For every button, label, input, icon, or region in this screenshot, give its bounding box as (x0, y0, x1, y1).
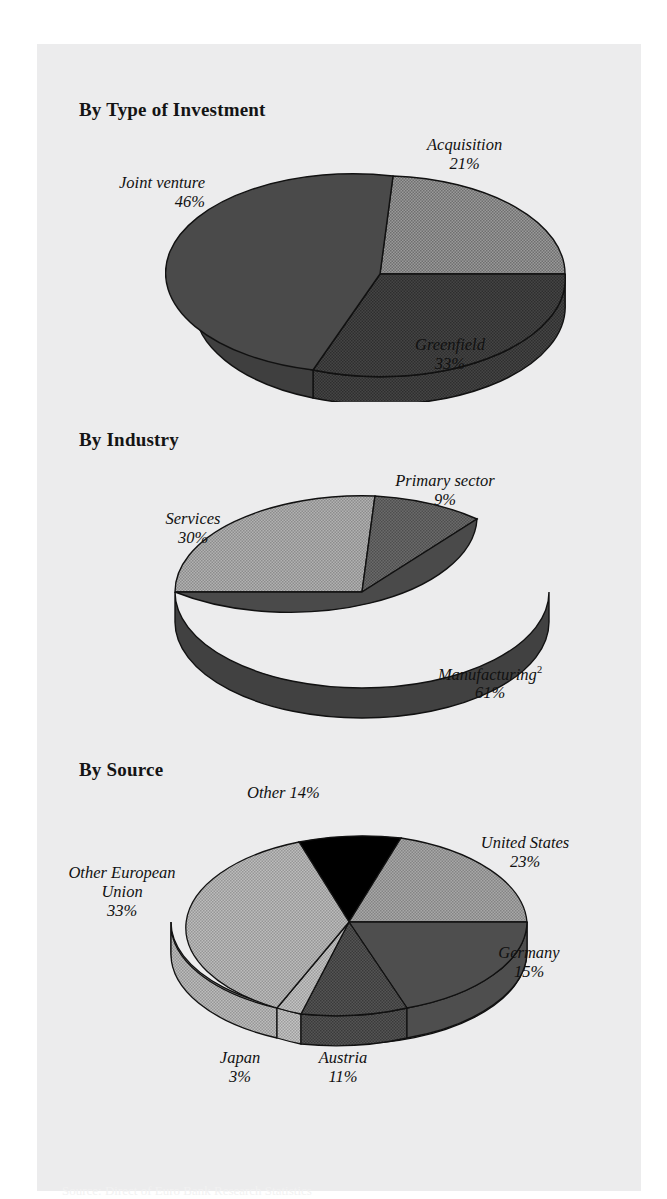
slice-label-primary-sector-value: 9% (355, 491, 535, 510)
footnote-marker-manufacturing: 2 (537, 664, 542, 675)
slice-label-united-states: United States 23% (435, 834, 615, 872)
slice-label-other-european-union-name: Other European (68, 863, 175, 882)
slice-label-united-states-name: United States (481, 833, 569, 852)
slice-label-joint-venture-value: 46% (37, 193, 205, 212)
document-page: By Type of Investment (37, 44, 641, 1191)
source-note: Source: Direct of Euro Bank Research Sta… (62, 1183, 312, 1199)
slice-label-manufacturing-value: 61% (385, 684, 595, 703)
slice-label-manufacturing: Manufacturing2 61% (385, 664, 595, 703)
slice-label-other-name: Other 14% (247, 783, 320, 802)
slice-label-austria-name: Austria (319, 1048, 368, 1067)
slice-label-austria: Austria 11% (283, 1049, 403, 1087)
slice-label-primary-sector-name: Primary sector (395, 471, 494, 490)
slice-label-other-european-union-value: 33% (32, 902, 212, 921)
slice-label-acquisition-name: Acquisition (427, 135, 502, 154)
slice-label-greenfield-name: Greenfield (415, 335, 485, 354)
slice-label-austria-value: 11% (283, 1068, 403, 1087)
slice-label-greenfield: Greenfield 33% (415, 336, 485, 374)
slice-label-joint-venture: Joint venture 46% (37, 174, 205, 212)
slice-label-germany-value: 15% (459, 963, 599, 982)
slice-label-other-european-union-name2: Union (32, 883, 212, 902)
slice-label-joint-venture-name: Joint venture (119, 173, 205, 192)
slice-label-other: Other 14% (247, 784, 320, 803)
slice-label-other-european-union: Other European Union 33% (32, 864, 212, 920)
slice-label-primary-sector: Primary sector 9% (355, 472, 535, 510)
pie-graphic-by-type-of-investment (165, 142, 585, 402)
chart-title-by-source: By Source (79, 759, 163, 781)
slice-label-japan: Japan 3% (185, 1049, 295, 1087)
chart-title-by-type-of-investment: By Type of Investment (79, 99, 266, 121)
slice-label-japan-value: 3% (185, 1068, 295, 1087)
slice-label-manufacturing-name: Manufacturing (438, 665, 537, 684)
slice-label-japan-name: Japan (220, 1048, 260, 1067)
slice-label-acquisition-value: 21% (427, 155, 502, 174)
slice-label-services: Services 30% (123, 510, 263, 548)
slice-label-greenfield-value: 33% (415, 355, 485, 374)
slice-label-services-value: 30% (123, 529, 263, 548)
slice-label-germany: Germany 15% (459, 944, 599, 982)
chart-title-by-industry: By Industry (79, 429, 179, 451)
slice-label-services-name: Services (166, 509, 221, 528)
slice-label-united-states-value: 23% (435, 853, 615, 872)
slice-label-acquisition: Acquisition 21% (427, 136, 502, 174)
slice-label-germany-name: Germany (498, 943, 559, 962)
